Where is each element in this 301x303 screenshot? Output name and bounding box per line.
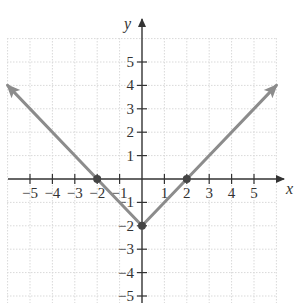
x-tick-label: −3 — [67, 185, 83, 201]
y-tick-label: 3 — [127, 101, 135, 117]
key-point-dot — [183, 175, 191, 183]
key-point-dot — [138, 222, 146, 230]
x-tick-label: −2 — [89, 185, 105, 201]
y-tick-label: 2 — [127, 124, 135, 140]
y-tick-label: 4 — [127, 77, 135, 93]
function-graph: −5−4−3−2−11234554321−1−2−3−4−5 x y — [0, 0, 301, 303]
y-axis-label: y — [122, 15, 132, 33]
x-tick-label: 4 — [228, 185, 236, 201]
x-tick-label: 2 — [183, 185, 191, 201]
key-point-dot — [93, 175, 101, 183]
x-axis-label: x — [285, 180, 293, 197]
y-tick-label: −5 — [118, 288, 134, 303]
x-tick-label: −4 — [44, 185, 60, 201]
x-tick-label: 3 — [205, 185, 213, 201]
x-tick-label: 5 — [250, 185, 258, 201]
y-tick-label: −2 — [118, 218, 134, 234]
y-tick-label: −4 — [118, 265, 134, 281]
x-tick-label: −5 — [22, 185, 38, 201]
y-tick-label: 5 — [127, 54, 135, 70]
y-tick-label: −3 — [118, 241, 134, 257]
y-tick-label: 1 — [127, 148, 135, 164]
